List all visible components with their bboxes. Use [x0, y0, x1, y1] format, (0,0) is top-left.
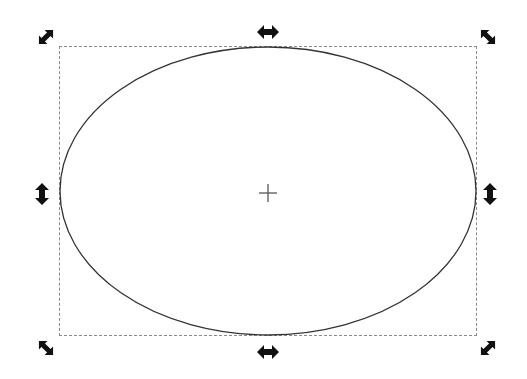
vertical-resize-arrow-icon — [30, 182, 54, 206]
diagonal-resize-arrow-icon — [34, 336, 58, 360]
handle-top-right[interactable] — [476, 25, 500, 49]
diagonal-resize-arrow-icon — [476, 25, 500, 49]
vertical-resize-arrow-icon — [478, 182, 502, 206]
diagonal-resize-arrow-icon — [34, 25, 58, 49]
rotation-center-crosshair-icon[interactable] — [257, 182, 279, 204]
handle-top-left[interactable] — [34, 25, 58, 49]
handle-middle-right[interactable] — [478, 182, 502, 206]
handle-top-center[interactable] — [256, 20, 280, 44]
handle-bottom-right[interactable] — [476, 336, 500, 360]
drawing-canvas[interactable] — [0, 0, 527, 379]
horizontal-resize-arrow-icon — [256, 340, 280, 364]
handle-bottom-center[interactable] — [256, 340, 280, 364]
diagonal-resize-arrow-icon — [476, 336, 500, 360]
horizontal-resize-arrow-icon — [256, 20, 280, 44]
handle-bottom-left[interactable] — [34, 336, 58, 360]
handle-middle-left[interactable] — [30, 182, 54, 206]
